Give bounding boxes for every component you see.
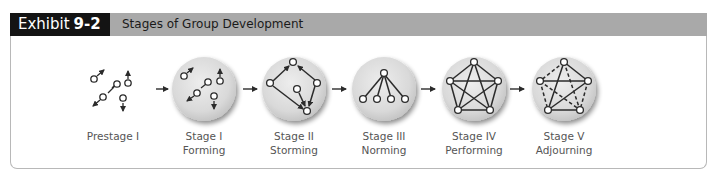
stage1-forming-icon (172, 57, 236, 121)
label-prestage: Prestage I (68, 129, 158, 143)
label-stage2: Stage II Storming (249, 129, 339, 157)
label-line2: Forming (159, 143, 249, 157)
label-line2: Adjourning (519, 143, 609, 157)
label-stage3: Stage III Norming (339, 129, 429, 157)
label-stage4: Stage IV Performing (429, 129, 519, 157)
prestage-icon (91, 70, 131, 111)
label-stage5: Stage V Adjourning (519, 129, 609, 157)
label-line1: Stage I (159, 129, 249, 143)
label-stage1: Stage I Forming (159, 129, 249, 157)
stage5-adjourning-icon (532, 57, 596, 121)
label-line1: Prestage I (68, 129, 158, 143)
label-line1: Stage II (249, 129, 339, 143)
label-line1: Stage V (519, 129, 609, 143)
label-line1: Stage IV (429, 129, 519, 143)
label-line2: Norming (339, 143, 429, 157)
stage3-norming-icon (352, 57, 416, 121)
stage4-performing-icon (442, 57, 506, 121)
label-line2: Storming (249, 143, 339, 157)
label-line1: Stage III (339, 129, 429, 143)
stage2-storming-icon (262, 57, 326, 121)
label-line2: Performing (429, 143, 519, 157)
